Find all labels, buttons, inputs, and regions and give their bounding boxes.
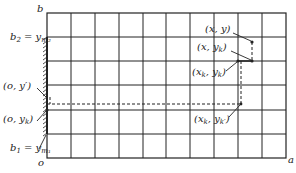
label-xk-yk: (xk, yk) [192,66,226,79]
lower-boundary-label: b1 = ym₁ [10,142,51,155]
y-end-label: b [37,3,43,14]
point-xk-ykprime [240,103,243,106]
origin-label: o [38,157,44,168]
label-xk-ykprime: (xk, yk′) [194,113,230,126]
label-x-y: (x, y) [205,23,231,34]
hatched-boundary [43,37,47,136]
label-o-yk: (o, yk) [3,113,33,126]
label-x-yk: (x, yk) [197,41,227,54]
upper-boundary-label: b2 = ym₂ [10,31,51,44]
grid-diagram: b o a b2 = ym₂ b1 = ym₁ (o, y′) (o, yk) … [0,0,296,173]
label-o-yprime: (o, y′) [3,80,31,91]
x-end-label: a [288,154,294,165]
